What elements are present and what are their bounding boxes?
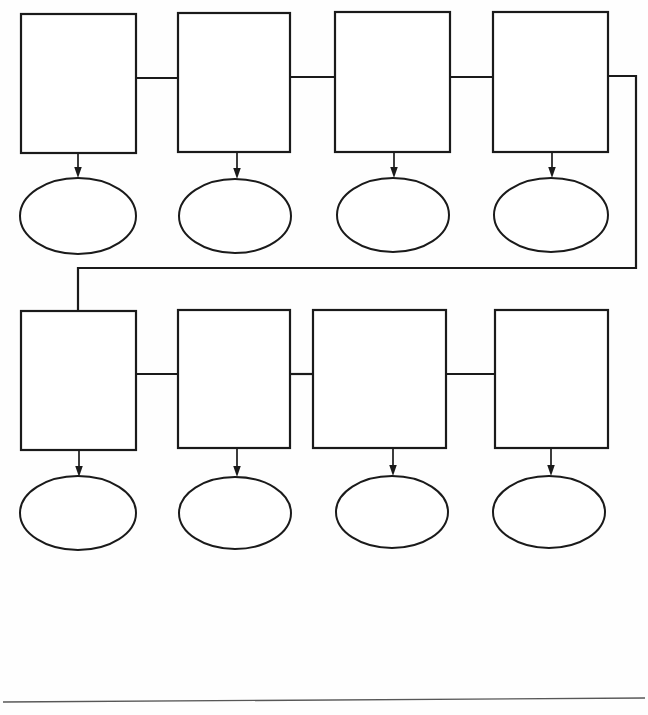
- row2-process-boxes: [21, 310, 608, 450]
- process-box-r2-c2[interactable]: [178, 310, 290, 448]
- terminal-oval-shape[interactable]: [179, 179, 291, 253]
- row1-process-boxes: [21, 12, 608, 153]
- arrow-box-r2-c4-to-oval-r2-c4: [547, 448, 555, 476]
- arrow-box-r2-c3-to-oval-r2-c3: [389, 448, 397, 476]
- diagram-page: [0, 0, 648, 715]
- terminal-oval-shape[interactable]: [336, 476, 448, 548]
- arrow-box-r1-c3-to-oval-r1-c3: [390, 152, 398, 178]
- arrow-box-r2-c2-to-oval-r2-c2: [233, 448, 241, 477]
- process-box-r1-c3[interactable]: [335, 12, 450, 152]
- terminal-oval-shape[interactable]: [494, 178, 608, 252]
- process-box-r2-c3[interactable]: [313, 310, 446, 448]
- arrow-head-icon: [548, 167, 556, 178]
- terminal-oval-shape[interactable]: [337, 178, 449, 252]
- process-box-r1-c2[interactable]: [178, 13, 290, 152]
- arrow-head-icon: [390, 167, 398, 178]
- arrow-head-icon: [233, 466, 241, 477]
- terminal-oval-r2-c2[interactable]: [179, 477, 291, 549]
- flowchart-canvas: [0, 0, 648, 715]
- terminal-oval-r1-c2[interactable]: [179, 179, 291, 253]
- terminal-oval-shape[interactable]: [20, 476, 136, 550]
- process-box-shape[interactable]: [21, 14, 136, 153]
- process-box-r2-c4[interactable]: [495, 310, 608, 448]
- terminal-oval-r1-c3[interactable]: [337, 178, 449, 252]
- terminal-oval-r2-c3[interactable]: [336, 476, 448, 548]
- process-box-shape[interactable]: [178, 13, 290, 152]
- arrow-head-icon: [547, 465, 555, 476]
- row2-terminal-ovals: [20, 476, 605, 550]
- terminal-oval-shape[interactable]: [179, 477, 291, 549]
- process-box-shape[interactable]: [493, 12, 608, 152]
- arrow-head-icon: [74, 167, 82, 178]
- terminal-oval-shape[interactable]: [20, 178, 136, 254]
- terminal-oval-r2-c1[interactable]: [20, 476, 136, 550]
- row1-terminal-ovals: [20, 178, 608, 254]
- process-box-r1-c4[interactable]: [493, 12, 608, 152]
- process-box-shape[interactable]: [178, 310, 290, 448]
- terminal-oval-r1-c4[interactable]: [494, 178, 608, 252]
- terminal-oval-shape[interactable]: [493, 476, 605, 548]
- process-box-r1-c1[interactable]: [21, 14, 136, 153]
- process-box-shape[interactable]: [313, 310, 446, 448]
- process-box-shape[interactable]: [335, 12, 450, 152]
- process-box-shape[interactable]: [495, 310, 608, 448]
- terminal-oval-r1-c1[interactable]: [20, 178, 136, 254]
- terminal-oval-r2-c4[interactable]: [493, 476, 605, 548]
- arrow-box-r1-c2-to-oval-r1-c2: [233, 152, 241, 179]
- arrow-box-r1-c4-to-oval-r1-c4: [548, 152, 556, 178]
- process-box-r2-c1[interactable]: [21, 311, 136, 450]
- footer-rule: [3, 698, 645, 702]
- arrow-box-r1-c1-to-oval-r1-c1: [74, 153, 82, 178]
- process-box-shape[interactable]: [21, 311, 136, 450]
- arrow-head-icon: [389, 465, 397, 476]
- arrow-head-icon: [233, 168, 241, 179]
- arrow-box-r2-c1-to-oval-r2-c1: [75, 450, 83, 477]
